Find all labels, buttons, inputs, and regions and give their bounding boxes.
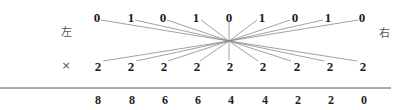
result-digit-7: 2 [295,94,301,106]
top-digit-6: 1 [259,11,266,24]
right-label: 右 [379,28,390,39]
result-digit-5: 4 [228,94,234,106]
bottom-digit-7: 2 [294,60,301,73]
connector-lines [0,0,412,110]
result-digit-1: 8 [95,94,101,106]
bottom-digit-5: 2 [227,60,234,73]
top-digit-5: 0 [226,11,233,24]
bottom-digit-6: 2 [260,60,267,73]
left-label: 左 [61,27,72,38]
result-digit-4: 6 [195,94,201,106]
result-digit-8: 2 [328,94,334,106]
top-digit-9: 0 [359,11,366,24]
top-digit-1: 0 [94,11,101,24]
top-digit-2: 1 [128,11,135,24]
cross-label: × [61,60,70,71]
top-digit-3: 0 [160,11,167,24]
result-digit-6: 4 [262,94,268,106]
bottom-digit-2: 2 [128,60,135,73]
result-digit-9: 0 [361,94,367,106]
bottom-digit-4: 2 [194,60,201,73]
top-digit-8: 1 [325,11,332,24]
top-digit-7: 0 [292,11,299,24]
diagram-canvas: 左 × 右 0 1 0 1 0 1 0 1 0 2 2 2 2 2 2 2 2 … [0,0,412,110]
result-digit-3: 6 [162,94,168,106]
bottom-digit-3: 2 [161,60,168,73]
bottom-digit-1: 2 [95,60,102,73]
bottom-digit-8: 2 [327,60,334,73]
bottom-digit-9: 2 [360,60,367,73]
top-digit-4: 1 [193,11,200,24]
result-digit-2: 8 [129,94,135,106]
